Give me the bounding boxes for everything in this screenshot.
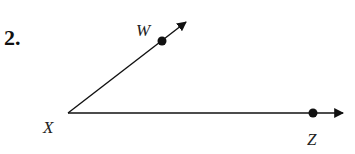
- ray-xw: [68, 22, 186, 113]
- point-w: [158, 37, 167, 46]
- label-w: W: [136, 21, 150, 41]
- point-z: [309, 109, 318, 118]
- label-z: Z: [307, 130, 316, 150]
- label-x: X: [43, 118, 53, 138]
